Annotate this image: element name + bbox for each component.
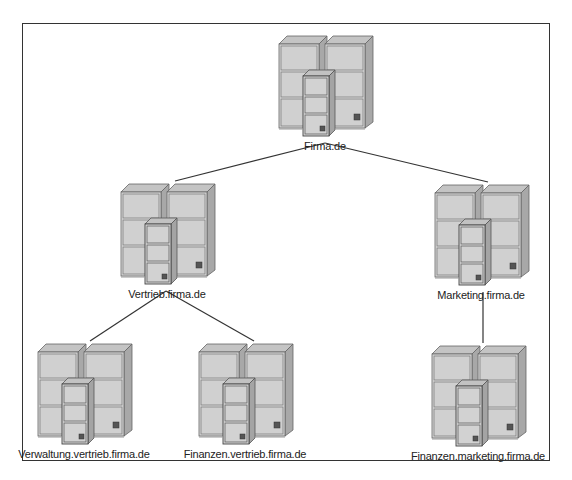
server-cabinet-icon <box>115 178 219 286</box>
server-cabinet-icon <box>193 338 297 446</box>
node-finanzen-vertrieb: Finanzen.vertrieb.firma.de <box>175 338 315 460</box>
node-root: Firma.de <box>255 30 395 152</box>
server-cabinet-icon <box>273 30 377 138</box>
node-vertrieb: Vertrieb.firma.de <box>97 178 237 300</box>
node-label: Marketing.firma.de <box>411 289 551 301</box>
node-finanzen-marketing: Finanzen.marketing.firma.de <box>408 340 548 462</box>
node-label: Vertrieb.firma.de <box>97 288 237 300</box>
server-cabinet-icon <box>426 340 530 448</box>
node-label: Firma.de <box>255 140 395 152</box>
node-label: Finanzen.vertrieb.firma.de <box>175 448 315 460</box>
server-cabinet-icon <box>32 338 136 446</box>
node-label: Finanzen.marketing.firma.de <box>408 450 548 462</box>
node-verwaltung-vertrieb: Verwaltung.vertrieb.firma.de <box>14 338 154 460</box>
server-cabinet-icon <box>429 179 533 287</box>
node-label: Verwaltung.vertrieb.firma.de <box>14 448 154 460</box>
node-marketing: Marketing.firma.de <box>411 179 551 301</box>
